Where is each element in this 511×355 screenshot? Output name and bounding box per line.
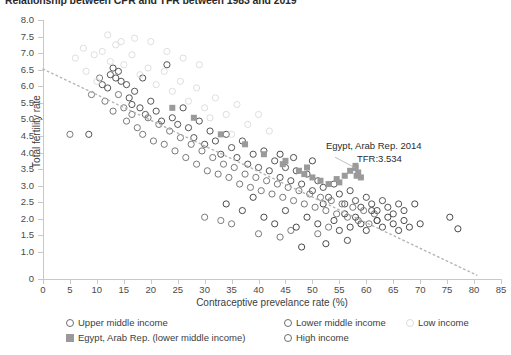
data-point-circle: [290, 198, 296, 204]
data-point-circle: [99, 48, 105, 54]
data-point-circle: [107, 58, 113, 64]
data-point-circle: [126, 95, 132, 101]
data-point-circle: [83, 68, 89, 74]
data-point-circle: [406, 224, 412, 230]
data-point-square: [218, 131, 224, 137]
data-point-circle: [323, 207, 329, 213]
series-lower-middle-income: [67, 75, 380, 240]
data-point-circle: [299, 244, 305, 250]
data-point-circle: [164, 62, 170, 68]
data-point-circle: [223, 111, 229, 117]
data-point-circle: [304, 214, 310, 220]
data-point-circle: [385, 214, 391, 220]
data-point-circle: [161, 141, 167, 147]
legend-marker-circle-icon: [284, 319, 292, 327]
legend-label: Egypt, Arab Rep. (lower middle income): [78, 331, 245, 345]
legend-item-lower-middle-income[interactable]: Lower middle income: [284, 316, 386, 330]
data-point-circle: [301, 201, 307, 207]
data-point-circle: [280, 194, 286, 200]
data-point-circle: [110, 108, 116, 114]
data-point-circle: [447, 214, 453, 220]
data-point-circle: [455, 226, 461, 232]
data-point-circle: [115, 68, 121, 74]
data-point-square: [282, 158, 288, 164]
data-point-circle: [253, 174, 259, 180]
series-low-income: [72, 32, 272, 138]
data-point-circle: [148, 98, 154, 104]
data-point-circle: [255, 111, 261, 117]
data-point-circle: [390, 221, 396, 227]
data-point-circle: [180, 105, 186, 111]
legend-item-egypt-arab-rep-lower-middle-income[interactable]: Egypt, Arab Rep. (lower middle income): [66, 331, 245, 345]
data-point-circle: [129, 101, 135, 107]
data-point-circle: [325, 224, 331, 230]
data-point-circle: [312, 204, 318, 210]
data-point-circle: [177, 78, 183, 84]
data-point-circle: [234, 101, 240, 107]
data-point-circle: [363, 194, 369, 200]
data-point-circle: [220, 161, 226, 167]
data-point-square: [317, 178, 323, 184]
annotation-leader-line: [335, 157, 355, 168]
data-point-circle: [347, 224, 353, 230]
data-point-circle: [269, 191, 275, 197]
data-point-circle: [317, 194, 323, 200]
data-point-circle: [132, 88, 138, 94]
legend-marker-circle-icon: [66, 319, 74, 327]
data-point-circle: [315, 231, 321, 237]
chart-legend: Upper middle incomeLower middle incomeLo…: [66, 316, 486, 350]
data-point-circle: [247, 184, 253, 190]
data-point-circle: [148, 38, 154, 44]
legend-label: Low income: [418, 316, 469, 330]
data-point-circle: [277, 174, 283, 180]
data-point-circle: [242, 171, 248, 177]
data-point-circle: [350, 204, 356, 210]
data-point-circle: [379, 198, 385, 204]
data-point-circle: [258, 188, 264, 194]
data-point-circle: [169, 115, 175, 121]
data-point-circle: [204, 168, 210, 174]
data-point-circle: [86, 131, 92, 137]
data-point-circle: [336, 227, 342, 233]
data-point-circle: [153, 82, 159, 88]
data-point-circle: [169, 88, 175, 94]
data-point-circle: [250, 151, 256, 157]
data-point-circle: [153, 108, 159, 114]
data-point-circle: [145, 65, 151, 71]
data-point-circle: [272, 221, 278, 227]
data-point-square: [296, 168, 302, 174]
data-point-circle: [218, 217, 224, 223]
data-point-circle: [293, 224, 299, 230]
data-point-circle: [115, 91, 121, 97]
data-point-circle: [105, 32, 111, 38]
data-point-circle: [369, 201, 375, 207]
data-point-circle: [129, 52, 135, 58]
data-point-square: [304, 164, 310, 170]
data-point-square: [261, 151, 267, 157]
legend-item-low-income[interactable]: Low income: [406, 316, 469, 330]
data-point-circle: [250, 194, 256, 200]
legend-item-upper-middle-income[interactable]: Upper middle income: [66, 316, 168, 330]
legend-label: Lower middle income: [296, 316, 386, 330]
legend-item-high-income[interactable]: High income: [284, 331, 349, 345]
data-point-circle: [207, 115, 213, 121]
data-point-circle: [331, 217, 337, 223]
data-point-circle: [175, 121, 181, 127]
data-point-circle: [385, 204, 391, 210]
data-point-circle: [72, 55, 78, 61]
data-point-circle: [315, 221, 321, 227]
data-point-circle: [274, 181, 280, 187]
data-point-circle: [188, 141, 194, 147]
data-point-circle: [207, 128, 213, 134]
data-point-circle: [228, 221, 234, 227]
data-point-circle: [417, 221, 423, 227]
data-point-circle: [199, 148, 205, 154]
data-point-circle: [255, 164, 261, 170]
data-point-circle: [239, 207, 245, 213]
data-point-circle: [193, 161, 199, 167]
data-point-circle: [150, 138, 156, 144]
data-point-circle: [67, 131, 73, 137]
data-point-circle: [255, 231, 261, 237]
data-point-circle: [196, 118, 202, 124]
data-point-circle: [118, 38, 124, 44]
